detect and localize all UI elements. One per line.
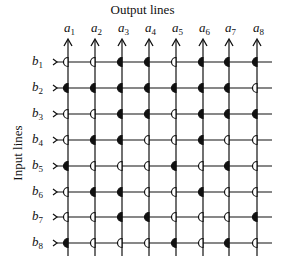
filled-contact-icon	[225, 84, 230, 93]
open-contact-icon	[172, 213, 177, 222]
open-contact-icon	[253, 162, 258, 171]
input-arrow-icon	[53, 189, 57, 195]
filled-contact-icon	[172, 84, 177, 93]
filled-contact-icon	[172, 239, 177, 248]
open-contact-icon	[172, 58, 177, 67]
output-label-a1: a1	[64, 20, 75, 37]
crossbar-diagram: Output lines Input lines a1a2a3a4a5a6a7a…	[0, 0, 285, 269]
open-contact-icon	[225, 136, 230, 145]
filled-contact-icon	[118, 58, 123, 67]
open-contact-icon	[253, 188, 258, 197]
output-label-a4: a4	[145, 20, 157, 37]
input-arrow-icon	[53, 59, 57, 65]
open-contact-icon	[172, 136, 177, 145]
input-label-b4: b4	[32, 131, 44, 148]
filled-contact-icon	[64, 239, 68, 248]
open-contact-icon	[199, 213, 204, 222]
output-label-a2: a2	[91, 20, 102, 37]
open-contact-icon	[64, 213, 68, 222]
open-contact-icon	[91, 213, 96, 222]
output-label-a6: a6	[199, 20, 211, 37]
filled-contact-icon	[225, 110, 230, 119]
filled-contact-icon	[145, 84, 150, 93]
filled-contact-icon	[145, 213, 150, 222]
filled-contact-icon	[225, 58, 230, 67]
input-label-b3: b3	[32, 105, 44, 122]
filled-contact-icon	[91, 84, 96, 93]
open-contact-icon	[91, 162, 96, 171]
input-arrow-icon	[53, 137, 57, 143]
open-contact-icon	[172, 188, 177, 197]
filled-contact-icon	[199, 136, 204, 145]
filled-contact-icon	[225, 162, 230, 171]
filled-contact-icon	[225, 239, 230, 248]
input-arrow-icon	[53, 85, 57, 91]
open-contact-icon	[225, 188, 230, 197]
open-contact-icon	[145, 162, 150, 171]
open-contact-icon	[91, 239, 96, 248]
filled-contact-icon	[118, 84, 123, 93]
open-contact-icon	[118, 239, 123, 248]
open-contact-icon	[64, 136, 68, 145]
open-contact-icon	[145, 239, 150, 248]
filled-contact-icon	[253, 213, 258, 222]
filled-contact-icon	[64, 162, 68, 171]
input-arrow-icon	[53, 163, 57, 169]
output-label-a8: a8	[253, 20, 265, 37]
open-contact-icon	[225, 213, 230, 222]
filled-contact-icon	[199, 188, 204, 197]
output-label-a7: a7	[225, 20, 237, 37]
open-contact-icon	[145, 136, 150, 145]
filled-contact-icon	[118, 213, 123, 222]
open-contact-icon	[64, 110, 68, 119]
output-label-a3: a3	[118, 20, 130, 37]
crossbar-grid: a1a2a3a4a5a6a7a8b1b2b3b4b5b6b7b8	[0, 0, 285, 269]
open-contact-icon	[145, 188, 150, 197]
filled-contact-icon	[199, 58, 204, 67]
filled-contact-icon	[253, 110, 258, 119]
input-label-b2: b2	[32, 79, 43, 96]
open-contact-icon	[253, 136, 258, 145]
filled-contact-icon	[172, 162, 177, 171]
filled-contact-icon	[145, 110, 150, 119]
filled-contact-icon	[253, 58, 258, 67]
output-label-a5: a5	[172, 20, 184, 37]
input-label-b7: b7	[32, 208, 44, 225]
input-arrow-icon	[53, 111, 57, 117]
input-label-b1: b1	[32, 53, 43, 70]
filled-contact-icon	[199, 110, 204, 119]
input-label-b6: b6	[32, 183, 44, 200]
filled-contact-icon	[91, 188, 96, 197]
open-contact-icon	[91, 110, 96, 119]
input-arrow-icon	[53, 214, 57, 220]
input-label-b5: b5	[32, 157, 44, 174]
filled-contact-icon	[91, 136, 96, 145]
input-arrow-icon	[53, 240, 57, 246]
open-contact-icon	[199, 162, 204, 171]
open-contact-icon	[172, 110, 177, 119]
filled-contact-icon	[145, 58, 150, 67]
open-contact-icon	[64, 188, 68, 197]
open-contact-icon	[91, 58, 96, 67]
filled-contact-icon	[118, 110, 123, 119]
open-contact-icon	[118, 162, 123, 171]
filled-contact-icon	[64, 84, 68, 93]
filled-contact-icon	[199, 84, 204, 93]
filled-contact-icon	[118, 188, 123, 197]
input-label-b8: b8	[32, 234, 44, 251]
open-contact-icon	[253, 84, 258, 93]
filled-contact-icon	[118, 136, 123, 145]
open-contact-icon	[199, 239, 204, 248]
open-contact-icon	[253, 239, 258, 248]
open-contact-icon	[64, 58, 68, 67]
